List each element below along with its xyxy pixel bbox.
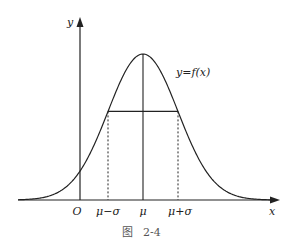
caption-prefix: 图: [122, 226, 133, 239]
normal-distribution-figure: y y=f(x) x O μ−σ μ μ+σ 图 2-4: [0, 0, 293, 252]
mu-label: μ: [139, 205, 146, 218]
mu-plus-sigma-label: μ+σ: [168, 205, 192, 218]
origin-label: O: [72, 205, 81, 218]
mu-minus-sigma-label: μ−σ: [96, 205, 120, 218]
curve-label: y=f(x): [175, 66, 210, 79]
density-curve: [18, 54, 272, 200]
y-axis-label: y: [66, 16, 74, 29]
x-axis-label: x: [269, 205, 276, 218]
y-axis-arrow-icon: [77, 17, 84, 27]
caption-number: 2-4: [143, 226, 161, 239]
